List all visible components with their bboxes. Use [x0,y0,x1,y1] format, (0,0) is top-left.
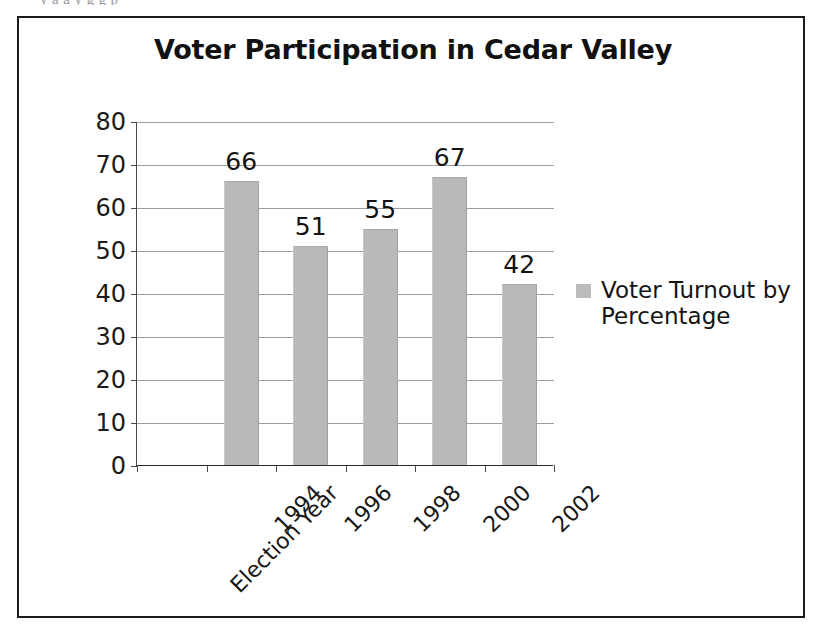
gridline [137,208,554,209]
bar [224,181,259,465]
y-axis-tick-label: 80 [95,108,126,136]
x-axis-category-label: 1996 [339,480,396,537]
bar-value-label: 66 [225,147,257,176]
y-axis-tick [131,251,137,252]
bar [293,246,328,465]
y-axis-tick [131,122,137,123]
x-axis-category-label: 2002 [548,480,605,537]
bar-value-label: 55 [364,195,396,224]
y-axis-tick-label: 70 [95,151,126,179]
series-color-swatch [576,284,591,298]
y-axis-tick-label: 20 [95,366,126,394]
bar-value-label: 42 [503,250,535,279]
x-axis-tick [346,465,347,472]
y-axis-tick-label: 50 [95,237,126,265]
y-axis-tick [131,380,137,381]
x-axis-tick [554,465,555,472]
y-axis-tick [131,337,137,338]
x-axis-tick [207,465,208,472]
bar-value-label: 67 [434,143,466,172]
x-axis-category-label: 1998 [409,480,466,537]
x-axis-tick [137,465,138,472]
x-axis-tick [276,465,277,472]
bar-value-label: 51 [295,212,327,241]
x-axis-tick [415,465,416,472]
y-axis-tick-label: 0 [111,452,126,480]
x-axis-tick [485,465,486,472]
plot-area: 01020304050607080 6651556742 Election Ye… [136,122,553,466]
y-axis-tick-label: 60 [95,194,126,222]
x-axis-category-label: 2000 [478,480,535,537]
bar [363,229,398,466]
y-axis-tick-label: 10 [95,409,126,437]
gridline [137,423,554,424]
y-axis-tick [131,294,137,295]
gridline [137,380,554,381]
y-axis-tick-label: 40 [95,280,126,308]
gridline [137,122,554,123]
gridline [137,337,554,338]
bar [502,284,537,465]
chart-title: Voter Participation in Cedar Valley [19,34,807,65]
gridline [137,251,554,252]
y-axis-tick [131,208,137,209]
y-axis-tick [131,423,137,424]
chart-figure-frame: Voter Participation in Cedar Valley 0102… [17,16,805,618]
gridline [137,165,554,166]
page-cut-off-text: y a a y g g p [40,0,460,5]
y-axis-tick [131,165,137,166]
legend-entry-label: Voter Turnout by Percentage [601,277,794,330]
y-axis-tick-label: 30 [95,323,126,351]
bar [432,177,467,465]
chart-legend: Voter Turnout by Percentage [576,277,794,330]
gridline [137,294,554,295]
